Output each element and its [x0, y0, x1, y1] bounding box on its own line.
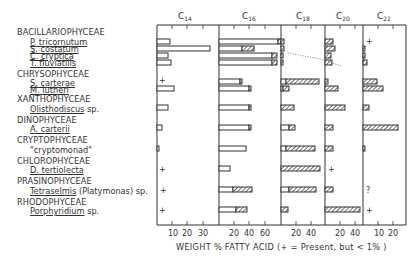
svg-text:+: +	[160, 186, 167, 195]
svg-text:+: +	[159, 206, 166, 215]
present-mark-c20: +	[328, 165, 335, 174]
tick-c16-20: 20	[229, 229, 239, 238]
svg-text:+: +	[159, 165, 166, 174]
tick-c22-10: 10	[374, 229, 384, 238]
bars-c20	[325, 39, 360, 212]
panel-title-c18: C18	[296, 11, 310, 22]
present-marks-c14: + + + +	[159, 76, 167, 215]
bars-c22	[363, 46, 398, 151]
bars-c18	[281, 39, 320, 212]
tick-c20-40: 40	[350, 229, 360, 238]
panel-title-c20: C20	[336, 11, 350, 22]
x-axis-label: WEIGHT % FATTY ACID (+ = Present, but < …	[176, 242, 387, 252]
dotted-connector	[288, 53, 325, 60]
bars-c16	[219, 39, 281, 212]
present-mark-c22-porph: +	[366, 206, 373, 215]
tick-c14-10: 10	[168, 229, 178, 238]
tick-c16-40: 40	[244, 229, 254, 238]
unknown-mark-c22: ?	[366, 186, 370, 195]
tick-c18-40: 40	[306, 229, 316, 238]
present-mark-c22-ptri: +	[366, 37, 373, 46]
panel-title-c16: C16	[242, 11, 256, 22]
fatty-acid-chart: C14 C16 C18 C20 C22 10 20 30 20 40 60 20…	[0, 0, 420, 261]
tick-c14-30: 30	[198, 229, 208, 238]
svg-text:+: +	[159, 76, 166, 85]
tick-c14-20: 20	[182, 229, 192, 238]
panel-title-c14: C14	[178, 11, 192, 22]
bars-c14	[157, 39, 210, 151]
tick-c18-20: 20	[291, 229, 301, 238]
tick-c22-20: 20	[388, 229, 398, 238]
tick-c16-60: 60	[260, 229, 270, 238]
panel-title-c22: C22	[377, 11, 391, 22]
tick-c20-20: 20	[335, 229, 345, 238]
